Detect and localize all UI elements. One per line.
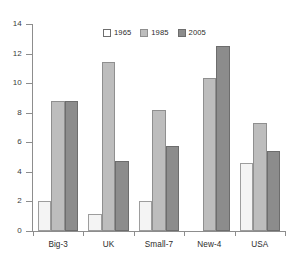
legend-swatch-icon-1985 <box>140 29 148 37</box>
bar-usa-2005 <box>267 151 281 231</box>
bar-big-3-1965 <box>38 201 52 231</box>
legend-item-1965[interactable]: 1965 <box>103 29 131 37</box>
bar-new-4-2005 <box>216 46 230 231</box>
bar-usa-1985 <box>253 123 267 231</box>
y-axis-tick-label: 2 <box>0 197 22 205</box>
x-axis-line <box>32 231 285 232</box>
y-axis-tick <box>26 113 33 114</box>
y-axis-tick-label: 6 <box>0 138 22 146</box>
legend-item-2005[interactable]: 2005 <box>178 29 206 37</box>
bars-layer <box>33 24 285 231</box>
bar-big-3-1985 <box>51 101 65 231</box>
x-axis-tick <box>285 231 286 236</box>
bar-chart: 02468101214 Big-3UKSmall-7New-4USA 19651… <box>0 0 300 263</box>
x-axis-tick <box>184 231 185 236</box>
x-axis-tick <box>33 231 34 236</box>
legend-swatch-icon-2005 <box>178 29 186 37</box>
y-axis-tick <box>26 172 33 173</box>
y-axis-tick <box>26 201 33 202</box>
legend-swatch-icon-1965 <box>103 29 111 37</box>
y-axis-tick <box>26 231 33 232</box>
x-axis-tick <box>235 231 236 236</box>
bar-new-4-1985 <box>203 78 217 231</box>
y-axis-tick-label: 12 <box>0 50 22 58</box>
y-axis-tick-label: 10 <box>0 79 22 87</box>
bar-small-7-1965 <box>139 201 153 231</box>
y-axis-tick-label: 4 <box>0 168 22 176</box>
y-axis-tick <box>26 24 33 25</box>
bar-small-7-2005 <box>166 146 180 231</box>
chart-legend: 196519852005 <box>103 29 206 37</box>
legend-label-2005: 2005 <box>189 29 206 37</box>
y-axis-tick-label: 0 <box>0 227 22 235</box>
bar-uk-1985 <box>102 62 116 231</box>
bar-uk-2005 <box>115 161 129 231</box>
y-axis-tick-label: 8 <box>0 109 22 117</box>
bar-small-7-1985 <box>152 110 166 231</box>
legend-item-1985[interactable]: 1985 <box>140 29 168 37</box>
x-axis-tick <box>134 231 135 236</box>
y-axis-tick-label: 14 <box>0 20 22 28</box>
bar-usa-1965 <box>240 163 254 231</box>
y-axis-tick <box>26 54 33 55</box>
bar-uk-1965 <box>88 214 102 231</box>
legend-label-1985: 1985 <box>151 29 168 37</box>
x-axis-tick <box>83 231 84 236</box>
x-axis-label-usa: USA <box>230 240 290 250</box>
y-axis-tick <box>26 142 33 143</box>
legend-label-1965: 1965 <box>114 29 131 37</box>
y-axis-tick <box>26 83 33 84</box>
bar-big-3-2005 <box>65 101 79 231</box>
